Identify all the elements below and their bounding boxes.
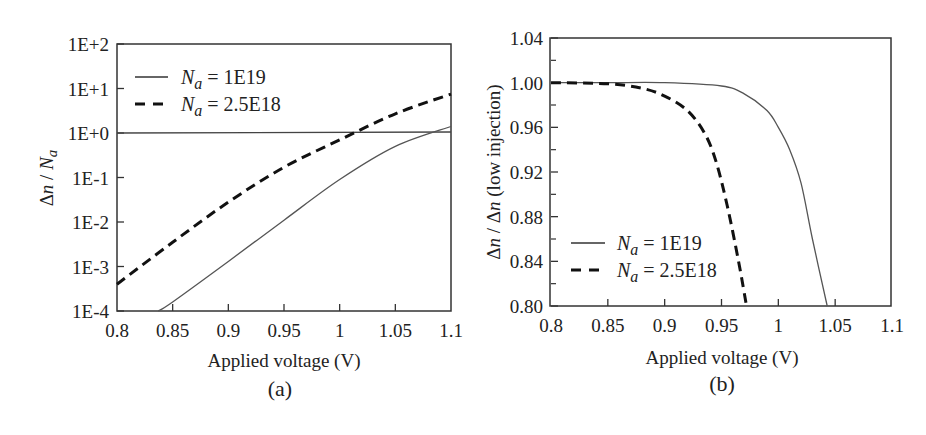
x-tick-label: 1.05 (819, 315, 852, 336)
plot-frame-a (117, 44, 451, 311)
x-axis-title-b: Applied voltage (V) (645, 347, 798, 369)
x-tick-label: 0.9 (653, 315, 677, 336)
x-tick-label: 1.1 (439, 320, 463, 341)
y-tick-label: 0.88 (510, 207, 543, 228)
panel-label-a: (a) (268, 376, 292, 401)
x-axis-title-a: Applied voltage (V) (207, 350, 360, 372)
y-tick-label: 1E-3 (72, 257, 109, 278)
y-axis-title-a: Δn / Na (36, 150, 60, 207)
y-tick-label: 0.96 (510, 117, 543, 138)
y-tick-label: 1E+2 (68, 34, 109, 55)
y-tick-label: 1E-2 (72, 212, 109, 233)
x-tick-label: 1.1 (880, 315, 904, 336)
legend-label-1e19: Na = 1E19 (616, 232, 702, 258)
legend-label-2-5e18: Na = 2.5E18 (180, 93, 281, 119)
legend-label-1e19: Na = 1E19 (180, 66, 266, 92)
y-tick-label: 1E+1 (68, 79, 109, 100)
y-tick-label: 0.84 (510, 251, 544, 272)
legend-label-2-5e18: Na = 2.5E18 (616, 259, 717, 285)
x-tick-label: 0.95 (267, 320, 300, 341)
y-tick-label: 0.92 (510, 162, 543, 183)
y-tick-label: 1E+0 (68, 123, 109, 144)
x-tick-label: 0.85 (591, 315, 624, 336)
y-tick-label: 0.80 (510, 296, 543, 317)
series-solid-a (158, 126, 451, 311)
y-tick-label: 1.00 (510, 73, 543, 94)
x-tick-label: 1 (335, 320, 345, 341)
x-tick-label: 0.8 (105, 320, 129, 341)
x-axis-ticks-b: 0.80.850.90.9511.051.1 (539, 299, 904, 336)
reference-line-a (117, 132, 451, 133)
x-tick-label: 1.05 (379, 320, 412, 341)
y-axis-title-b: Δn / Δn (low injection) (483, 84, 505, 259)
y-axis-ticks-a: 1E-41E-31E-21E-11E+01E+11E+2 (68, 34, 124, 322)
y-axis-ticks-b: 0.800.840.880.920.961.001.04 (510, 28, 558, 317)
legend-a: Na = 1E19 Na = 2.5E18 (135, 66, 281, 119)
legend-b: Na = 1E19 Na = 2.5E18 (571, 232, 717, 285)
y-tick-label: 1E-1 (72, 168, 109, 189)
x-tick-label: 0.9 (216, 320, 240, 341)
x-tick-label: 0.8 (539, 315, 563, 336)
chart-a: 1E-41E-31E-21E-11E+01E+11E+2 0.80.850.90… (36, 34, 463, 401)
x-tick-label: 1 (774, 315, 784, 336)
x-axis-ticks-a: 0.80.850.90.9511.051.1 (105, 304, 463, 341)
x-tick-label: 0.85 (156, 320, 189, 341)
chart-b: 0.800.840.880.920.961.001.04 0.80.850.90… (483, 28, 904, 396)
y-tick-label: 1.04 (510, 28, 544, 49)
y-tick-label: 1E-4 (72, 301, 109, 322)
x-tick-label: 0.95 (705, 315, 738, 336)
series-dashed-a (117, 94, 451, 284)
panel-label-b: (b) (709, 371, 735, 396)
figure-canvas: 1E-41E-31E-21E-11E+01E+11E+2 0.80.850.90… (0, 0, 926, 435)
